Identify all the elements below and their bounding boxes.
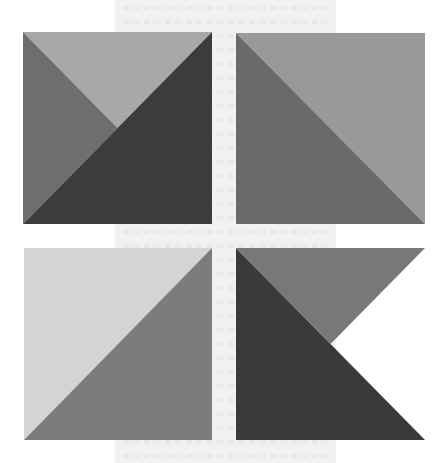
panel-bottom-right [236, 248, 425, 440]
panel-bottom-left [24, 248, 212, 440]
panel-top-right [236, 33, 425, 224]
panel-top-left [23, 32, 212, 224]
diagonal-squares-figure [0, 0, 447, 463]
